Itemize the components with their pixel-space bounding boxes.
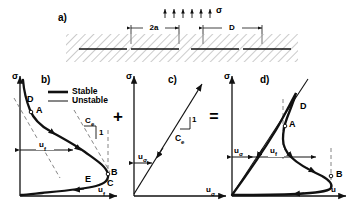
marker-B-d: [329, 174, 333, 178]
panel-b-y-axis-label: σ: [12, 71, 18, 81]
svg-text:1: 1: [99, 128, 104, 137]
panel-b-label-E: E: [85, 174, 91, 184]
marker-A: [29, 110, 33, 114]
marker-A-d: [283, 124, 287, 128]
panel-b-label-C: C: [107, 178, 114, 188]
svg-text:σ: σ: [143, 157, 147, 163]
panel-c-label: c): [168, 74, 177, 85]
legend-label-unstable: Unstable: [72, 95, 108, 105]
panel-a-label: a): [58, 12, 67, 23]
panel-b-label-D: D: [27, 94, 34, 104]
figure-svg: a) σ 2a D: [0, 0, 354, 218]
panel-b-label-B: B: [111, 167, 118, 177]
panel-d-label-D: D: [300, 101, 307, 111]
panel-d-label-B: B: [336, 169, 343, 179]
operator-plus: +: [113, 107, 123, 126]
hatched-medium-wash: [66, 34, 298, 62]
dimension-D-label: D: [229, 23, 235, 32]
panel-c-y-axis-label: σ: [126, 71, 132, 81]
panel-d-label-A: A: [289, 119, 296, 129]
sigma-symbol-panel-a: σ: [216, 5, 222, 15]
marker-B: [106, 172, 110, 176]
panel-d-label: d): [260, 74, 269, 85]
dimension-2a-label: 2a: [150, 23, 159, 32]
panel-b-label-A: A: [36, 105, 43, 115]
operator-equals: =: [209, 108, 218, 125]
panel-d-y-axis-label: σ: [224, 71, 230, 81]
panel-b-label: b): [41, 74, 50, 85]
panel-c-slope-unit: 1: [192, 115, 197, 124]
figure-root: a) σ 2a D: [0, 0, 354, 218]
svg-text:σ: σ: [239, 151, 243, 157]
svg-text:σ: σ: [211, 191, 215, 197]
